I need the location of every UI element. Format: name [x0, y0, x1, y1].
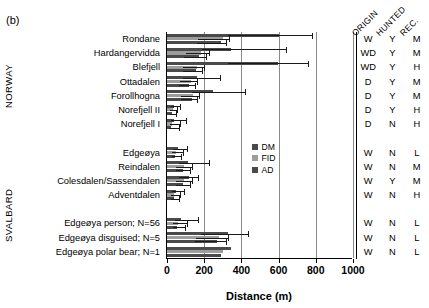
row-label: Forollhogna — [8, 89, 163, 103]
attribute-cell-hunted: N — [380, 245, 404, 259]
attribute-row: WNM — [356, 160, 429, 174]
bar-row — [167, 103, 352, 117]
attribute-row — [356, 131, 429, 145]
bar-row — [167, 75, 352, 89]
attribute-row: WNL — [356, 146, 429, 160]
attribute-cell-hunted: Y — [380, 46, 404, 60]
attribute-cell-hunted: N — [380, 117, 404, 131]
error-bar-ad — [176, 185, 191, 186]
error-bar-dm — [228, 35, 312, 36]
attribute-cell-rec: M — [405, 75, 429, 89]
error-bar-fid — [196, 238, 229, 239]
bar-row — [167, 231, 352, 245]
row-label: Ottadalen — [8, 75, 163, 89]
attribute-row: WYM — [356, 32, 429, 46]
attribute-cell-hunted: N — [380, 216, 404, 230]
attribute-cell-origin — [356, 131, 380, 145]
x-tick-label: 0 — [147, 264, 187, 276]
legend-label: FID — [262, 153, 276, 163]
x-axis-title: Distance (m) — [166, 290, 352, 302]
row-label: Edgeøya person; N=56 — [8, 216, 163, 230]
x-tick-label: 600 — [259, 264, 299, 276]
attribute-row: WNH — [356, 188, 429, 202]
attribute-cell-origin: W — [356, 146, 380, 160]
attribute-cell-origin: D — [356, 75, 380, 89]
row-label: Rondane — [8, 32, 163, 46]
error-bar-dm — [171, 120, 187, 121]
attribute-cell-rec: L — [405, 231, 429, 245]
error-bar-ad — [171, 199, 179, 200]
error-bar-dm — [201, 234, 249, 235]
row-label: Edgeøya polar bear; N=1 — [8, 245, 163, 259]
error-bar-dm — [183, 78, 221, 79]
error-bar-ad — [181, 99, 198, 100]
legend-item: FID — [252, 153, 275, 165]
chart-legend: DMFIDAD — [252, 141, 275, 176]
attribute-cell-rec: L — [405, 216, 429, 230]
attribute-cell-rec: M — [405, 89, 429, 103]
attribute-row: DYM — [356, 89, 429, 103]
attribute-cell-hunted — [380, 202, 404, 216]
attribute-row: WDYH — [356, 60, 429, 74]
attribute-cell-hunted: Y — [380, 75, 404, 89]
x-tick-label: 800 — [296, 264, 336, 276]
bar-ad — [167, 254, 221, 257]
figure-panel-b: (b) NORWAY SVALBARD RondaneHardangervidd… — [0, 0, 429, 308]
attribute-cell-rec — [405, 131, 429, 145]
panel-label: (b) — [6, 14, 19, 26]
attribute-cell-hunted: Y — [380, 60, 404, 74]
error-bar-dm — [179, 177, 198, 178]
attribute-cell-origin: WD — [356, 46, 380, 60]
error-bar-dm — [202, 49, 286, 50]
attribute-cell-origin: W — [356, 188, 380, 202]
x-tick — [353, 259, 354, 263]
attribute-cell-rec — [405, 202, 429, 216]
legend-label: AD — [262, 165, 274, 175]
attribute-table: WYMWDYMWDYHDYMDYMDYHDNH WNLWNMWYMWNH WNL… — [356, 32, 429, 259]
row-label-spacer — [8, 202, 163, 216]
error-bar-dm — [172, 191, 185, 192]
attribute-cell-rec: M — [405, 32, 429, 46]
attribute-cell-hunted: Y — [380, 103, 404, 117]
attribute-cell-rec: H — [405, 103, 429, 117]
attribute-cell-origin: D — [356, 89, 380, 103]
row-label: Edgeøya — [8, 146, 163, 160]
error-bar-ad — [197, 43, 227, 44]
row-label: Hardangervidda — [8, 46, 163, 60]
row-label: Reindalen — [8, 160, 163, 174]
bar-row — [167, 89, 352, 103]
x-tick — [167, 259, 168, 263]
bar-fid — [167, 250, 223, 253]
legend-swatch-icon — [252, 167, 258, 173]
x-tick-label: 200 — [184, 264, 224, 276]
row-label: Adventdalen — [8, 188, 163, 202]
attribute-row: DYM — [356, 75, 429, 89]
bar-dm — [167, 247, 231, 250]
x-tick-label: 400 — [221, 264, 261, 276]
attribute-cell-origin: W — [356, 160, 380, 174]
error-bar-dm — [173, 149, 187, 150]
attribute-cell-origin: W — [356, 174, 380, 188]
bar-row-spacer — [167, 202, 352, 216]
attribute-cell-origin: W — [356, 231, 380, 245]
attribute-cell-origin: W — [356, 216, 380, 230]
attribute-cell-hunted: Y — [380, 174, 404, 188]
attribute-cell-hunted: N — [380, 188, 404, 202]
bar-row — [167, 117, 352, 131]
bar-row — [167, 188, 352, 202]
attribute-row: WNL — [356, 231, 429, 245]
attribute-cell-hunted: N — [380, 146, 404, 160]
x-tick — [241, 259, 242, 263]
error-bar-ad — [184, 57, 207, 58]
bar-row — [167, 245, 352, 259]
legend-item: DM — [252, 141, 275, 153]
attribute-row — [356, 202, 429, 216]
row-label: Colesdalen/Sassendalen — [8, 174, 163, 188]
error-bar-dm — [179, 163, 210, 164]
error-bar-ad — [170, 114, 177, 115]
gridline — [353, 32, 354, 258]
error-bar-ad — [179, 85, 196, 86]
attribute-cell-hunted: Y — [380, 32, 404, 46]
error-bar-ad — [183, 71, 202, 72]
attribute-cell-origin: WD — [356, 60, 380, 74]
